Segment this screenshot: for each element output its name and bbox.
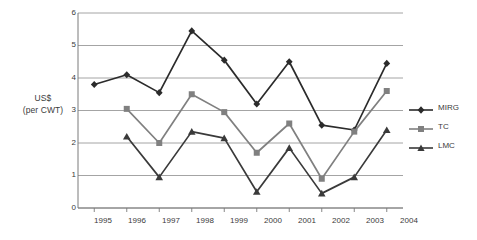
datapoint-lmc-0 xyxy=(123,133,131,140)
datapoint-tc-2 xyxy=(189,91,195,97)
legend-item-lmc[interactable]: LMC xyxy=(408,136,474,155)
series-line-lmc xyxy=(127,130,387,193)
series-lines xyxy=(91,27,391,196)
datapoint-mirg-9 xyxy=(383,60,390,67)
datapoint-tc-8 xyxy=(384,88,390,94)
datapoint-mirg-2 xyxy=(156,89,163,96)
plot-area xyxy=(0,0,477,240)
legend-label-lmc: LMC xyxy=(438,141,455,150)
datapoint-tc-7 xyxy=(351,129,357,135)
datapoint-tc-0 xyxy=(124,106,130,112)
datapoint-tc-5 xyxy=(286,121,292,127)
datapoint-tc-1 xyxy=(156,140,162,146)
legend: MIRG TC LMC xyxy=(408,98,474,155)
datapoint-mirg-0 xyxy=(91,81,98,88)
legend-key-lmc-triangle-icon xyxy=(408,140,434,152)
axis-lines xyxy=(78,13,403,212)
legend-label-mirg: MIRG xyxy=(438,103,459,112)
legend-label-tc: TC xyxy=(438,122,449,131)
datapoint-mirg-7 xyxy=(318,122,325,129)
legend-item-tc[interactable]: TC xyxy=(408,117,474,136)
legend-item-mirg[interactable]: MIRG xyxy=(408,98,474,117)
datapoint-mirg-1 xyxy=(123,71,130,78)
legend-key-mirg-diamond-icon xyxy=(408,102,434,114)
datapoint-tc-3 xyxy=(221,109,227,115)
legend-key-tc-square-icon xyxy=(408,121,434,133)
datapoint-lmc-8 xyxy=(383,126,391,133)
datapoint-tc-6 xyxy=(319,176,325,182)
datapoint-lmc-5 xyxy=(285,144,293,151)
datapoint-tc-4 xyxy=(254,150,260,156)
line-chart: US$ (per CWT) 6 5 4 3 2 1 0 1995 1996 19… xyxy=(0,0,477,240)
